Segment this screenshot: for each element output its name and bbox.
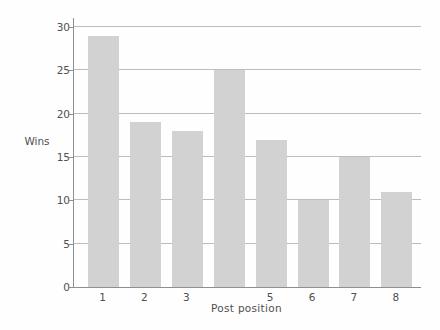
bar-post-6 [298,200,329,287]
gridline-y-30 [74,26,421,27]
bar-post-4 [214,70,245,287]
bar-post-8 [381,192,412,287]
y-tick-mark-5 [69,244,73,245]
x-tick-label-7: 7 [339,291,369,303]
y-tick-mark-0 [69,287,73,288]
x-tick-label-2: 2 [129,291,159,303]
y-tick-mark-25 [69,70,73,71]
gridline-y-20 [74,113,421,114]
bar-post-3 [172,131,203,287]
x-tick-label-5: 5 [255,291,285,303]
x-axis-title: Post position [73,302,420,314]
bar-post-7 [339,157,370,287]
y-tick-label-15: 15 [34,151,70,163]
y-tick-label-30: 30 [34,21,70,33]
bar-post-1 [88,36,119,287]
y-tick-label-5: 5 [34,238,70,250]
y-tick-mark-10 [69,200,73,201]
bar-chart-figure: Wins Post position 0510152025301235678 [0,0,440,330]
x-tick-label-1: 1 [88,291,118,303]
bar-post-2 [130,122,161,287]
y-axis-title: Wins [16,135,58,147]
y-tick-label-10: 10 [34,194,70,206]
bar-post-5 [256,140,287,287]
gridline-y-25 [74,69,421,70]
y-tick-label-25: 25 [34,64,70,76]
y-tick-mark-15 [69,157,73,158]
y-tick-label-20: 20 [34,108,70,120]
y-tick-mark-30 [69,27,73,28]
x-tick-label-8: 8 [381,291,411,303]
y-tick-label-0: 0 [34,281,70,293]
x-tick-label-6: 6 [297,291,327,303]
y-tick-mark-20 [69,114,73,115]
x-tick-label-3: 3 [171,291,201,303]
plot-area [73,18,421,288]
